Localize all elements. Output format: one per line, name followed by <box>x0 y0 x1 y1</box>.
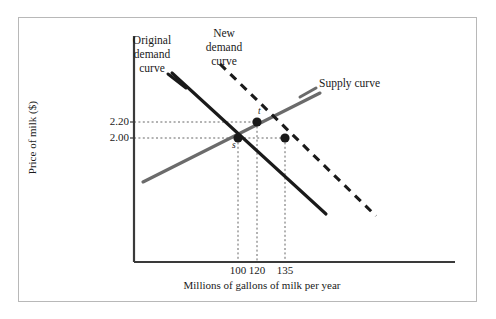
point-t-marker <box>252 117 261 126</box>
original-demand-line-3: curve <box>121 61 183 75</box>
point-q-marker <box>280 133 289 142</box>
new-demand-line-1: New <box>196 26 252 40</box>
new-demand-line-3: curve <box>196 54 252 68</box>
y-tick-label-220: 2.20 <box>95 115 129 128</box>
figure-container: Original demand curve Original demand cu… <box>0 0 496 319</box>
new-demand-line-2: demand <box>196 40 252 54</box>
point-label-s: s <box>232 140 236 150</box>
x-axis-title: Millions of gallons of milk per year <box>152 279 372 292</box>
original-demand-curve-label: Original demand curve Original demand cu… <box>121 33 183 75</box>
supply-curve-label: Supply curve <box>319 76 380 90</box>
x-tick-label-120: 120 <box>242 264 272 277</box>
new-demand-curve-label: New demand curve <box>196 26 252 68</box>
x-tick-label-135: 135 <box>270 264 300 277</box>
y-tick-label-200: 2.00 <box>95 131 129 144</box>
original-demand-line-1: Original <box>121 33 183 47</box>
original-demand-line-2: demand <box>121 47 183 61</box>
point-label-t: t <box>258 106 261 116</box>
y-axis-title: Price of milk ($) <box>26 78 39 198</box>
droplines-group <box>134 122 285 262</box>
